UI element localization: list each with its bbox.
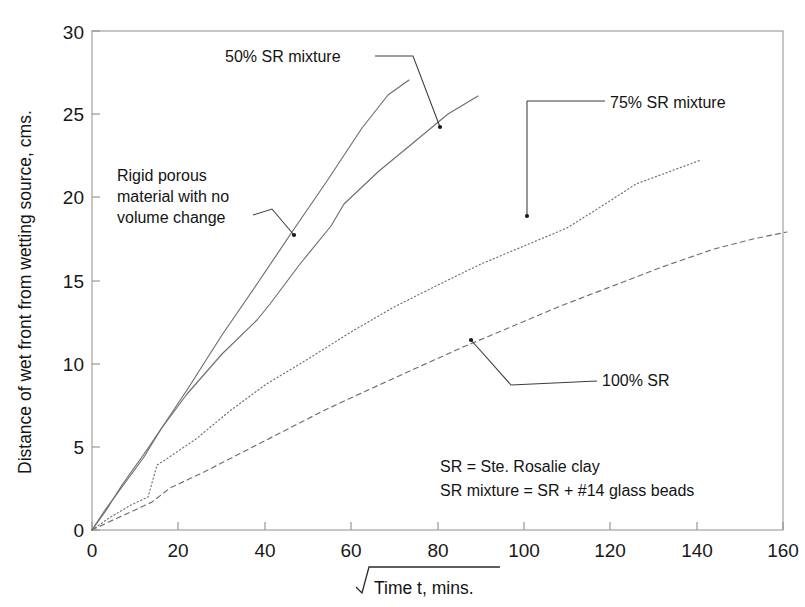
y-tick-label-25: 25 — [63, 104, 84, 125]
note-line-2: SR mixture = SR + #14 glass beads — [440, 482, 694, 499]
y-tick-label-0: 0 — [73, 520, 84, 541]
leader-dot-100-sr — [469, 338, 473, 342]
y-tick-label-5: 5 — [73, 437, 84, 458]
x-tick-label-100: 100 — [508, 540, 540, 561]
wetting-front-chart: 0 5 10 15 20 25 30 0 20 40 60 80 — [0, 0, 805, 607]
annotation-75-sr-mixture: 75% SR mixture — [525, 94, 726, 218]
series-50-sr-mixture — [92, 96, 478, 530]
leader-line-75-sr — [527, 101, 605, 216]
chart-page: 0 5 10 15 20 25 30 0 20 40 60 80 — [0, 0, 805, 607]
leader-line-rigid-porous — [253, 209, 294, 235]
x-tick-label-140: 140 — [681, 540, 713, 561]
x-axis-tick-labels: 0 20 40 60 80 100 120 140 160 — [87, 540, 799, 561]
y-tick-label-15: 15 — [63, 271, 84, 292]
annotation-label-100-sr: 100% SR — [602, 372, 670, 389]
x-tick-label-120: 120 — [594, 540, 626, 561]
chart-notes: SR = Ste. Rosalie clay SR mixture = SR +… — [440, 458, 694, 499]
y-axis-ticks — [92, 31, 100, 530]
annotation-50-sr-mixture: 50% SR mixture — [225, 48, 442, 129]
annotation-label-rigid-line2: material with no — [117, 188, 229, 205]
leader-line-50-sr — [375, 56, 440, 127]
annotation-label-75-sr: 75% SR mixture — [610, 94, 726, 111]
y-axis-title: Distance of wet front from wetting sourc… — [15, 110, 35, 474]
annotation-label-rigid-line3: volume change — [117, 209, 226, 226]
x-axis-title: Time t, mins. — [374, 578, 474, 598]
x-tick-label-20: 20 — [167, 540, 188, 561]
y-axis-tick-labels: 0 5 10 15 20 25 30 — [63, 22, 84, 541]
x-tick-label-160: 160 — [767, 540, 799, 561]
leader-dot-75-sr — [525, 214, 529, 218]
x-tick-label-40: 40 — [254, 540, 275, 561]
x-tick-label-80: 80 — [427, 540, 448, 561]
x-axis-ticks — [92, 522, 783, 530]
y-tick-label-20: 20 — [63, 187, 84, 208]
annotation-label-rigid-line1: Rigid porous — [117, 167, 207, 184]
x-axis-title-group: Time t, mins. — [356, 567, 500, 598]
leader-line-100-sr — [471, 340, 597, 385]
y-tick-label-10: 10 — [63, 354, 84, 375]
annotation-rigid-porous: Rigid porous material with no volume cha… — [117, 167, 296, 237]
annotation-label-50-sr: 50% SR mixture — [225, 48, 341, 65]
note-line-1: SR = Ste. Rosalie clay — [440, 458, 600, 475]
leader-dot-rigid-porous — [292, 233, 296, 237]
y-tick-label-30: 30 — [63, 22, 84, 43]
annotation-100-sr: 100% SR — [469, 338, 670, 389]
x-tick-label-60: 60 — [340, 540, 361, 561]
leader-dot-50-sr — [438, 125, 442, 129]
x-tick-label-0: 0 — [87, 540, 98, 561]
